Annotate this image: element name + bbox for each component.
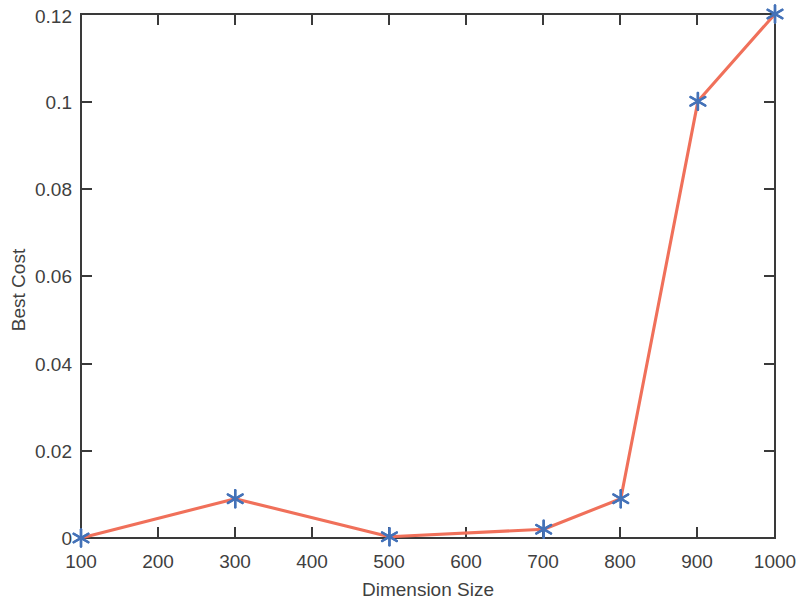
y-axis-title: Best Cost: [8, 248, 29, 331]
y-axis-ticks: [81, 14, 775, 538]
y-tick-label-0.08: 0.08: [35, 179, 72, 200]
line-chart-canvas: 0 0.02 0.04 0.06 0.08 0.1 0.12 100 200 3…: [0, 0, 801, 602]
y-tick-label-0.04: 0.04: [35, 354, 72, 375]
y-tick-label-0.06: 0.06: [35, 266, 72, 287]
x-tick-label-300: 300: [219, 551, 251, 572]
x-axis-tick-labels: 100 200 300 400 500 600 700 800 900 1000: [65, 551, 796, 572]
y-axis-tick-labels: 0 0.02 0.04 0.06 0.08 0.1 0.12: [35, 6, 72, 549]
series-line-best-cost: [81, 14, 775, 538]
x-tick-label-200: 200: [142, 551, 174, 572]
x-tick-label-700: 700: [527, 551, 559, 572]
data-series-layer: [74, 6, 783, 547]
x-tick-label-500: 500: [373, 551, 405, 572]
x-tick-label-1000: 1000: [754, 551, 796, 572]
x-tick-label-400: 400: [296, 551, 328, 572]
y-tick-label-0.12: 0.12: [35, 6, 72, 27]
data-point-marker: [613, 490, 628, 507]
y-tick-label-0.02: 0.02: [35, 441, 72, 462]
x-tick-label-600: 600: [450, 551, 482, 572]
x-tick-label-100: 100: [65, 551, 97, 572]
plot-axes: [81, 14, 775, 538]
x-tick-label-800: 800: [604, 551, 636, 572]
chart-figure: 0 0.02 0.04 0.06 0.08 0.1 0.12 100 200 3…: [0, 0, 801, 602]
axis-frame: [81, 14, 775, 538]
x-axis-ticks: [158, 14, 697, 538]
y-tick-label-0.1: 0.1: [46, 92, 72, 113]
x-tick-label-900: 900: [681, 551, 713, 572]
x-axis-title: Dimension Size: [362, 579, 494, 600]
y-tick-label-0: 0: [61, 528, 72, 549]
